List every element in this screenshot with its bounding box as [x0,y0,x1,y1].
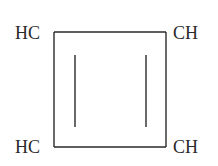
atom-label-top-right: CH [173,23,198,43]
atom-label-bottom-left: HC [15,137,40,157]
cyclobutadiene-structure: HC CH HC CH [0,0,218,166]
atom-label-bottom-right: CH [173,137,198,157]
atom-label-top-left: HC [15,23,40,43]
